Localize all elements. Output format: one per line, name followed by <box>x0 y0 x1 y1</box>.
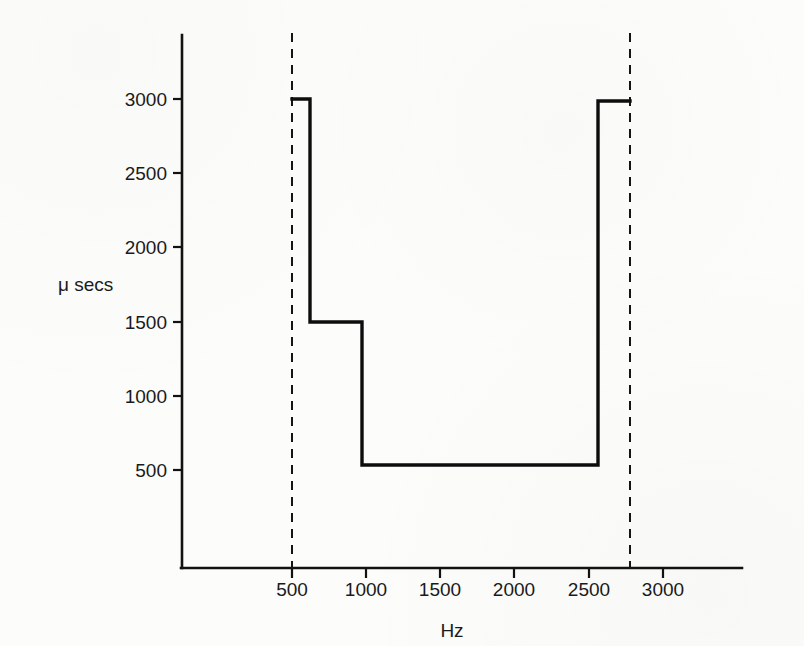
x-tick-labels-group: 500 1000 1500 2000 2500 3000 <box>276 579 684 600</box>
y-tick-label-1500: 1500 <box>125 312 167 333</box>
y-tick-label-2000: 2000 <box>125 237 167 258</box>
x-ticks-group <box>292 568 663 578</box>
y-tick-labels-group: 3000 2500 2000 1500 1000 500 <box>125 89 167 481</box>
axes-group <box>181 35 742 568</box>
y-tick-label-2500: 2500 <box>125 163 167 184</box>
annotation-lines-group <box>292 33 630 568</box>
x-tick-label-2000: 2000 <box>493 579 535 600</box>
step-chart: 3000 2500 2000 1500 1000 500 μ secs 500 … <box>0 0 804 646</box>
x-tick-label-3000: 3000 <box>642 579 684 600</box>
y-axis-title: μ secs <box>58 274 113 295</box>
x-axis-title: Hz <box>440 620 463 641</box>
x-tick-label-500: 500 <box>276 579 308 600</box>
y-ticks-group <box>173 99 182 470</box>
y-tick-label-1000: 1000 <box>125 386 167 407</box>
y-tick-label-500: 500 <box>135 460 167 481</box>
x-tick-label-2500: 2500 <box>568 579 610 600</box>
x-tick-label-1500: 1500 <box>419 579 461 600</box>
data-step-curve <box>292 99 630 465</box>
x-tick-label-1000: 1000 <box>345 579 387 600</box>
chart-figure: 3000 2500 2000 1500 1000 500 μ secs 500 … <box>0 0 804 646</box>
y-tick-label-3000: 3000 <box>125 89 167 110</box>
